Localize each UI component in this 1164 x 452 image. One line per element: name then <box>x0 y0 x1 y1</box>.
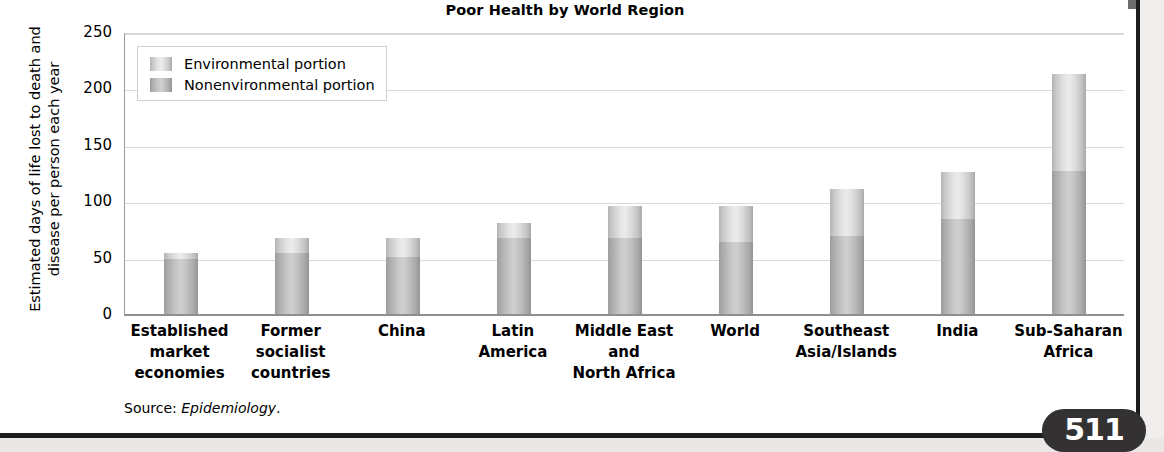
page-frame-bottom-shadow <box>0 438 1164 452</box>
y-axis-title: Estimated days of life lost to death and… <box>26 19 64 319</box>
y-axis-tick-150: 150 <box>56 136 112 154</box>
x-axis-label-8: Sub-SaharanAfrica <box>993 321 1143 363</box>
bar-segment-nonenvironmental <box>941 219 975 315</box>
legend-item-environmental: Environmental portion <box>150 53 376 74</box>
page-frame-right-shadow <box>1140 0 1164 452</box>
bar-segment-environmental <box>275 238 309 253</box>
x-axis-label-line: Asia/Islands <box>771 342 921 363</box>
page-number-badge: 511 <box>1042 409 1146 452</box>
legend-label-environmental: Environmental portion <box>184 56 346 72</box>
bar-segment-nonenvironmental <box>497 238 531 315</box>
bar-segment-nonenvironmental <box>830 236 864 315</box>
bar-segment-environmental <box>830 189 864 236</box>
y-axis-tick-250: 250 <box>56 23 112 41</box>
bar-segment-nonenvironmental <box>719 242 753 315</box>
x-axis-label-line: socialist <box>216 342 366 363</box>
bar-group <box>608 206 642 315</box>
bar-segment-nonenvironmental <box>1052 171 1086 315</box>
source-prefix: Source: <box>124 400 181 416</box>
bar-segment-environmental <box>941 172 975 219</box>
source-note: Source: Epidemiology. <box>124 400 281 416</box>
source-suffix: . <box>276 400 280 416</box>
y-axis-tick-100: 100 <box>56 192 112 210</box>
legend-swatch-environmental-icon <box>150 57 172 71</box>
x-axis-label-line: Sub-Saharan <box>993 321 1143 342</box>
bar-segment-nonenvironmental <box>275 253 309 315</box>
bar-segment-environmental <box>497 223 531 239</box>
chart-title: Poor Health by World Region <box>0 2 1130 18</box>
bar-group <box>1052 74 1086 315</box>
page-canvas: Poor Health by World Region Estimated da… <box>0 0 1164 452</box>
page-number-text: 511 <box>1064 415 1124 447</box>
bar-segment-environmental <box>1052 74 1086 171</box>
y-axis-tick-200: 200 <box>56 79 112 97</box>
bar-group <box>830 189 864 315</box>
x-axis-label-line: and <box>549 342 699 363</box>
gridline-150 <box>125 147 1124 148</box>
chart-legend: Environmental portion Nonenvironmental p… <box>137 46 387 101</box>
y-axis-tick-50: 50 <box>56 249 112 267</box>
bar-segment-nonenvironmental <box>608 238 642 315</box>
bar-group <box>275 238 309 315</box>
bar-segment-environmental <box>608 206 642 239</box>
x-axis-label-line: countries <box>216 363 366 384</box>
bar-group <box>164 253 198 315</box>
bar-segment-nonenvironmental <box>386 257 420 315</box>
bar-group <box>497 223 531 315</box>
legend-item-nonenvironmental: Nonenvironmental portion <box>150 74 376 95</box>
gridline-250 <box>125 34 1124 35</box>
x-axis-label-line: Africa <box>993 342 1143 363</box>
bar-segment-environmental <box>386 238 420 257</box>
bar-group <box>386 238 420 315</box>
x-axis-line <box>124 314 1124 316</box>
bar-segment-environmental <box>719 206 753 242</box>
bar-group <box>719 206 753 315</box>
legend-swatch-nonenvironmental-icon <box>150 78 172 92</box>
bar-segment-nonenvironmental <box>164 259 198 315</box>
legend-label-nonenvironmental: Nonenvironmental portion <box>184 77 375 93</box>
bar-group <box>941 172 975 315</box>
x-axis-label-line: North Africa <box>549 363 699 384</box>
source-publication: Epidemiology <box>181 400 276 416</box>
